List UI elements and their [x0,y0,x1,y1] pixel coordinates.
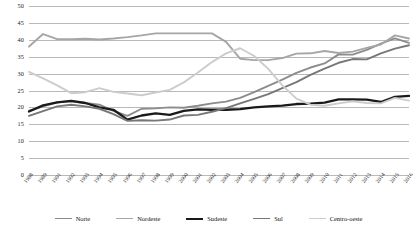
legend-label: Norte [76,215,91,222]
legend-label: Centro-oeste [330,215,363,222]
y-tick-label: 0 [0,171,24,178]
legend-item-sudeste[interactable]: Sudeste [186,215,227,222]
y-tick-label: 50 [0,2,24,9]
legend-swatch-icon [55,218,72,219]
y-tick-label: 15 [0,120,24,127]
legend-swatch-icon [186,218,203,220]
legend-label: Sul [274,215,283,222]
y-tick-label: 45 [0,19,24,26]
y-tick-label: 30 [0,70,24,77]
line-chart: 05101520253035404550 1988198919911992199… [0,0,417,234]
series-line-nordeste [29,33,409,60]
series-line-centro-oeste [29,48,409,105]
series-lines [29,6,409,175]
legend-label: Nordeste [137,215,160,222]
y-tick-label: 10 [0,137,24,144]
plot-area [29,6,409,175]
legend-swatch-icon [116,218,133,219]
legend-label: Sudeste [207,215,227,222]
legend-swatch-icon [309,218,326,219]
legend-item-nordeste[interactable]: Nordeste [116,215,160,222]
legend-item-sul[interactable]: Sul [253,215,283,222]
y-tick-label: 25 [0,87,24,94]
y-tick-label: 40 [0,36,24,43]
legend-swatch-icon [253,218,270,219]
y-tick-label: 5 [0,154,24,161]
x-tick-label: 1988 [22,171,34,184]
series-line-sul [29,45,409,121]
y-tick-label: 35 [0,53,24,60]
y-tick-label: 20 [0,103,24,110]
legend-item-norte[interactable]: Norte [55,215,91,222]
chart-legend: NorteNordesteSudesteSulCentro-oeste [0,215,417,222]
legend-item-centro-oeste[interactable]: Centro-oeste [309,215,363,222]
series-line-sudeste [29,96,409,120]
